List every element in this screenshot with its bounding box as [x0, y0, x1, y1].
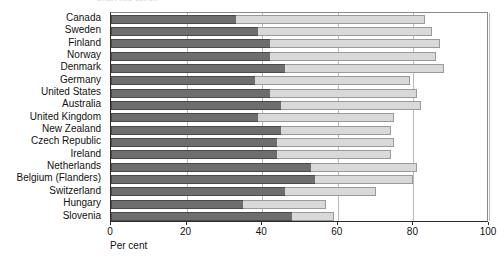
- bar-row: [111, 136, 487, 148]
- cut-off-title-text: Chart title cut off: [96, 0, 396, 3]
- bar-segment-lower: [111, 113, 258, 122]
- bar-segment-upper: [277, 138, 394, 147]
- bar-row: [111, 87, 487, 99]
- category-label: Sweden: [0, 24, 106, 36]
- stacked-bar: [111, 187, 376, 196]
- stacked-bar: [111, 163, 417, 172]
- stacked-bar: [111, 175, 413, 184]
- bar-segment-upper: [315, 175, 413, 184]
- bar-row: [111, 124, 487, 136]
- bar-segment-upper: [277, 150, 390, 159]
- category-label: Finland: [0, 37, 106, 49]
- bar-row: [111, 13, 487, 25]
- x-tick-label: 40: [256, 226, 267, 237]
- bar-segment-lower: [111, 64, 285, 73]
- category-label: Ireland: [0, 148, 106, 160]
- bar-segment-lower: [111, 163, 311, 172]
- category-label: Norway: [0, 49, 106, 61]
- bar-row: [111, 112, 487, 124]
- bar-row: [111, 198, 487, 210]
- stacked-bar: [111, 15, 425, 24]
- bar-segment-lower: [111, 15, 236, 24]
- bar-segment-lower: [111, 89, 270, 98]
- x-tick-label: 0: [107, 226, 113, 237]
- bar-segment-lower: [111, 126, 281, 135]
- stacked-bar: [111, 150, 391, 159]
- chart-container: Chart title cut off CanadaSwedenFinlandN…: [0, 0, 504, 270]
- category-label: Netherlands: [0, 160, 106, 172]
- stacked-bar: [111, 212, 334, 221]
- bar-segment-lower: [111, 52, 270, 61]
- x-tick-label: 80: [407, 226, 418, 237]
- bar-segment-upper: [270, 39, 440, 48]
- bar-segment-upper: [270, 89, 417, 98]
- x-tick-mark: [110, 222, 111, 225]
- bar-segment-upper: [258, 113, 394, 122]
- bar-segment-upper: [270, 52, 436, 61]
- category-label: Australia: [0, 98, 106, 110]
- bar-segment-lower: [111, 101, 281, 110]
- bar-row: [111, 161, 487, 173]
- bar-row: [111, 50, 487, 62]
- stacked-bar: [111, 76, 410, 85]
- category-label: New Zealand: [0, 123, 106, 135]
- x-tick-label: 100: [480, 226, 497, 237]
- bar-segment-lower: [111, 27, 258, 36]
- bar-row: [111, 149, 487, 161]
- bar-segment-lower: [111, 200, 243, 209]
- x-tick-mark: [337, 222, 338, 225]
- bar-segment-lower: [111, 150, 277, 159]
- stacked-bar: [111, 27, 432, 36]
- bar-row: [111, 75, 487, 87]
- bar-segment-upper: [281, 126, 391, 135]
- stacked-bar: [111, 200, 326, 209]
- stacked-bar: [111, 126, 391, 135]
- category-label: Germany: [0, 74, 106, 86]
- bar-row: [111, 211, 487, 223]
- category-label: Czech Republic: [0, 135, 106, 147]
- bar-row: [111, 25, 487, 37]
- category-label: United Kingdom: [0, 111, 106, 123]
- bar-segment-upper: [311, 163, 417, 172]
- category-label: Canada: [0, 12, 106, 24]
- bar-row: [111, 99, 487, 111]
- stacked-bar: [111, 113, 394, 122]
- category-label: Switzerland: [0, 185, 106, 197]
- stacked-bar: [111, 39, 440, 48]
- bar-row: [111, 62, 487, 74]
- plot-area: [110, 12, 488, 222]
- bar-segment-upper: [236, 15, 425, 24]
- category-label: Denmark: [0, 61, 106, 73]
- stacked-bar: [111, 101, 421, 110]
- bar-series-group: [111, 13, 487, 221]
- bar-segment-upper: [255, 76, 410, 85]
- x-tick-label: 60: [331, 226, 342, 237]
- bar-segment-lower: [111, 175, 315, 184]
- bar-segment-upper: [285, 64, 444, 73]
- bar-segment-lower: [111, 212, 292, 221]
- stacked-bar: [111, 89, 417, 98]
- x-axis: 020406080100: [110, 222, 488, 238]
- x-tick-label: 20: [180, 226, 191, 237]
- x-axis-title: Per cent: [110, 240, 147, 252]
- category-label: Belgium (Flanders): [0, 172, 106, 184]
- bar-segment-lower: [111, 138, 277, 147]
- category-label: United States: [0, 86, 106, 98]
- category-axis-labels: CanadaSwedenFinlandNorwayDenmarkGermanyU…: [0, 12, 106, 222]
- bar-segment-upper: [281, 101, 421, 110]
- bar-row: [111, 186, 487, 198]
- x-tick-mark: [488, 222, 489, 225]
- category-label: Hungary: [0, 197, 106, 209]
- bar-segment-upper: [258, 27, 432, 36]
- bar-segment-upper: [292, 212, 334, 221]
- stacked-bar: [111, 52, 436, 61]
- bar-segment-upper: [285, 187, 376, 196]
- bar-row: [111, 173, 487, 185]
- x-tick-mark: [412, 222, 413, 225]
- category-label: Slovenia: [0, 210, 106, 222]
- bar-segment-lower: [111, 76, 255, 85]
- bar-segment-lower: [111, 187, 285, 196]
- cut-off-title-strip: Chart title cut off: [96, 0, 396, 7]
- x-tick-mark: [186, 222, 187, 225]
- gridline: [489, 13, 490, 221]
